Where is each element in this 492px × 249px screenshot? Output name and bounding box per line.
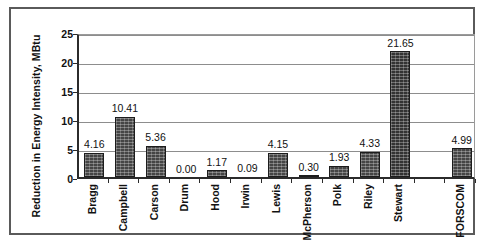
- x-axis-label-text: McPherson: [301, 184, 312, 241]
- bar[interactable]: [115, 117, 135, 177]
- y-axis-tick-mark: [73, 179, 77, 180]
- x-axis-label-blank: [414, 184, 445, 242]
- x-axis-label-carson: Carson: [138, 184, 169, 242]
- bar-slot: 0.00: [171, 35, 202, 177]
- x-axis-tick-mark: [169, 179, 170, 183]
- bar-value-label: 0.09: [237, 163, 257, 174]
- y-axis-tick-label: 10: [47, 116, 73, 127]
- bar[interactable]: [390, 51, 410, 177]
- x-axis-label-riley: Riley: [353, 184, 384, 242]
- x-axis-label-text: Lewis: [271, 184, 282, 213]
- bar[interactable]: [146, 146, 166, 177]
- x-axis-tick-mark: [261, 179, 262, 183]
- bar-slot: 10.41: [110, 35, 141, 177]
- x-axis-label-forscom: FORSCOM: [444, 184, 475, 242]
- bar-slot: 0.30: [293, 35, 324, 177]
- bar[interactable]: [237, 176, 257, 177]
- x-axis-tick-mark: [444, 179, 445, 183]
- bar-value-label: 4.99: [451, 135, 471, 146]
- bar-slot: 1.93: [324, 35, 355, 177]
- bar[interactable]: [84, 153, 104, 177]
- bar-value-label: 0.00: [176, 164, 196, 175]
- y-axis-tick-label: 0: [47, 174, 73, 185]
- chart-frame: Reduction in Energy Intensity, MBtu 0510…: [9, 7, 475, 235]
- bar-slot: 5.36: [140, 35, 171, 177]
- y-axis-tick-mark: [73, 63, 77, 64]
- x-axis-label-text: Bragg: [87, 184, 98, 214]
- x-axis-label-text: Carson: [148, 184, 159, 220]
- x-axis-tick-mark: [475, 179, 476, 183]
- y-axis-tick-label: 20: [47, 58, 73, 69]
- bar[interactable]: [329, 166, 349, 177]
- x-axis-tick-mark: [108, 179, 109, 183]
- x-axis-tick-mark: [230, 179, 231, 183]
- x-axis-label-campbell: Campbell: [108, 184, 139, 242]
- y-axis-tick-label: 5: [47, 145, 73, 156]
- x-axis-tick-mark: [353, 179, 354, 183]
- x-axis-label-text: Hood: [210, 184, 221, 211]
- bar-slot: 4.99: [446, 35, 477, 177]
- x-axis-tick-mark: [414, 179, 415, 183]
- x-axis-label-text: Drum: [179, 184, 190, 211]
- bar-value-label: 4.33: [360, 138, 380, 149]
- bar-value-label: 21.65: [387, 38, 413, 49]
- x-axis-label-text: Riley: [363, 184, 374, 209]
- y-axis-tick-mark: [73, 34, 77, 35]
- x-axis-tick-mark: [383, 179, 384, 183]
- bar-value-label: 4.16: [84, 139, 104, 150]
- x-axis-label-text: Polk: [332, 184, 343, 206]
- bar-value-label: 1.93: [329, 152, 349, 163]
- x-axis-tick-mark: [199, 179, 200, 183]
- x-axis-label-drum: Drum: [169, 184, 200, 242]
- y-axis-tick-label: 15: [47, 87, 73, 98]
- y-axis-tick-label: 25: [47, 29, 73, 40]
- x-axis-label-bragg: Bragg: [77, 184, 108, 242]
- bar-slot: 4.33: [355, 35, 386, 177]
- bar-value-label: 1.17: [207, 157, 227, 168]
- bar-slot: 4.16: [79, 35, 110, 177]
- x-axis-label-text: Stewart: [393, 184, 404, 222]
- plot-area: 4.1610.415.360.001.170.094.150.301.934.3…: [77, 34, 475, 179]
- x-axis-label-text: Campbell: [118, 184, 129, 231]
- x-axis-label-mcpherson: McPherson: [291, 184, 322, 242]
- x-axis-label-hood: Hood: [199, 184, 230, 242]
- x-axis-tick-mark: [291, 179, 292, 183]
- bar-slot: 1.17: [201, 35, 232, 177]
- x-axis-tick-mark: [322, 179, 323, 183]
- y-axis-tick-mark: [73, 150, 77, 151]
- x-axis-label-stewart: Stewart: [383, 184, 414, 242]
- bar-value-label: 5.36: [145, 132, 165, 143]
- bar-value-label: 10.41: [112, 103, 138, 114]
- x-axis-label-text: FORSCOM: [454, 184, 465, 238]
- x-axis-label-polk: Polk: [322, 184, 353, 242]
- bar-slot: 4.15: [263, 35, 294, 177]
- bar[interactable]: [360, 152, 380, 177]
- x-axis-label-irwin: Irwin: [230, 184, 261, 242]
- x-axis-label-lewis: Lewis: [261, 184, 292, 242]
- bar[interactable]: [452, 148, 472, 177]
- bar-value-label: 4.15: [268, 139, 288, 150]
- y-axis-tick-mark: [73, 121, 77, 122]
- bar[interactable]: [268, 153, 288, 177]
- bar-slot: 0.09: [232, 35, 263, 177]
- x-axis-category-labels: BraggCampbellCarsonDrumHoodIrwinLewisMcP…: [77, 184, 475, 242]
- bar-slot: [416, 35, 447, 177]
- bar-value-label: 0.30: [298, 162, 318, 173]
- y-axis-tick-labels: 0510152025: [41, 34, 73, 179]
- bar[interactable]: [299, 175, 319, 177]
- bar-slot: 21.65: [385, 35, 416, 177]
- x-axis-label-text: Irwin: [240, 184, 251, 209]
- x-axis-tick-mark: [138, 179, 139, 183]
- y-axis-tick-mark: [73, 92, 77, 93]
- bar[interactable]: [207, 170, 227, 177]
